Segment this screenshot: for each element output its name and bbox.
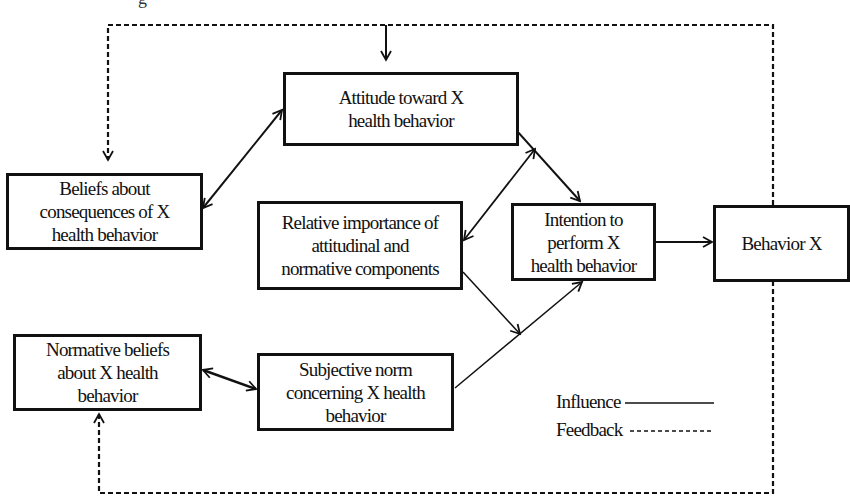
legend-influence-label: Influence: [556, 391, 621, 413]
node-normative-beliefs: Normative beliefsabout X healthbehavior: [13, 334, 202, 411]
node-label-line: health behavior: [531, 254, 637, 277]
node-label-line: Attitude toward X: [339, 86, 464, 109]
node-subjective-norm: Subjective normconcerning X healthbehavi…: [257, 353, 454, 431]
node-label-line: attitudinal and: [281, 234, 439, 257]
node-behavior: Behavior X: [713, 205, 850, 282]
node-beliefs: Beliefs aboutconsequences of Xhealth beh…: [6, 173, 203, 250]
node-label-line: consequences of X: [40, 200, 170, 223]
arrow-subjective-intention: [455, 282, 582, 388]
node-label-line: behavior: [286, 404, 425, 427]
node-label-line: concerning X health: [286, 381, 425, 404]
node-label-line: Relative importance of: [281, 211, 439, 234]
node-label-line: normative components: [281, 257, 439, 280]
node-label-line: about X health: [46, 361, 169, 384]
node-attitude: Attitude toward Xhealth behavior: [283, 72, 519, 146]
node-label-line: Normative beliefs: [46, 338, 169, 361]
caption-fragment: g: [138, 0, 147, 9]
node-intention: Intention toperform Xhealth behavior: [511, 203, 656, 281]
node-relative-importance: Relative importance ofattitudinal andnor…: [257, 201, 463, 290]
legend-feedback-label: Feedback: [556, 419, 622, 441]
arrow-normative-subjective: [203, 370, 256, 389]
arrow-relative-subjective-link: [463, 272, 520, 334]
node-label-line: Subjective norm: [286, 358, 425, 381]
node-label-line: Behavior X: [741, 232, 821, 255]
node-label-line: health behavior: [339, 109, 464, 132]
node-label-line: perform X: [531, 231, 637, 254]
node-label-line: health behavior: [40, 223, 170, 246]
node-label-line: behavior: [46, 384, 169, 407]
arrow-beliefs-attitude: [203, 110, 282, 208]
node-label-line: Beliefs about: [40, 177, 170, 200]
node-label-line: Intention to: [531, 208, 637, 231]
